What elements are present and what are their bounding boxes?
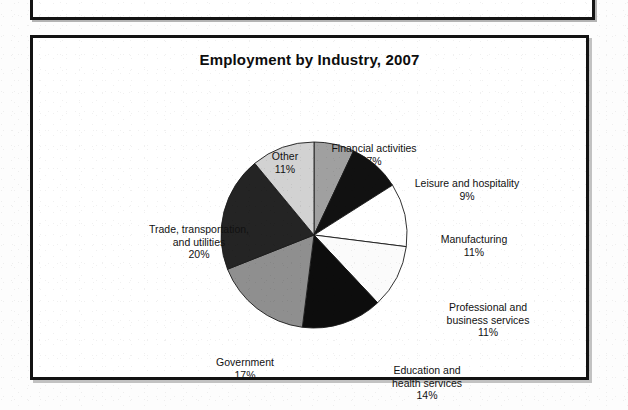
pie-label-government-value: 17% xyxy=(216,369,274,382)
pie-label-education-line2: health services xyxy=(392,377,462,390)
scanned-page: Employment by Industry, 2007 Other 11% F… xyxy=(0,0,628,410)
pie-label-leisure-and-hospitality-value: 9% xyxy=(415,190,519,203)
clipped-upper-figure-frame xyxy=(30,0,595,20)
pie-label-education-value: 14% xyxy=(392,389,462,402)
pie-label-leisure-and-hospitality: Leisure and hospitality 9% xyxy=(415,177,519,202)
pie-label-manufacturing-name: Manufacturing xyxy=(441,233,508,246)
pie-label-education-line1: Education and xyxy=(392,364,462,377)
pie-label-professional-value: 11% xyxy=(447,326,530,339)
figure-frame: Employment by Industry, 2007 Other 11% F… xyxy=(30,35,589,380)
pie-label-other: Other 11% xyxy=(272,150,298,175)
pie-label-professional-line1: Professional and xyxy=(447,301,530,314)
pie-label-education-and-health-services: Education and health services 14% xyxy=(392,364,462,402)
pie-label-trade-transportation-and-utilities: Trade, transportation, and utilities 20% xyxy=(149,223,249,261)
pie-label-professional-line2: business services xyxy=(447,314,530,327)
pie-label-government-name: Government xyxy=(216,356,274,369)
pie-label-professional-and-business-services: Professional and business services 11% xyxy=(447,301,530,339)
pie-label-manufacturing: Manufacturing 11% xyxy=(441,233,508,258)
pie-label-government: Government 17% xyxy=(216,356,274,381)
pie-label-other-name: Other xyxy=(272,150,298,163)
pie-label-trade-value: 20% xyxy=(149,248,249,261)
pie-label-financial-activities: Financial activities 7% xyxy=(331,142,416,167)
pie-label-financial-activities-name: Financial activities xyxy=(331,142,416,155)
pie-label-other-value: 11% xyxy=(272,163,298,176)
pie-label-trade-line1: Trade, transportation, xyxy=(149,223,249,236)
pie-label-leisure-and-hospitality-name: Leisure and hospitality xyxy=(415,177,519,190)
pie-label-trade-line2: and utilities xyxy=(149,236,249,249)
pie-label-financial-activities-value: 7% xyxy=(331,155,416,168)
pie-label-manufacturing-value: 11% xyxy=(441,246,508,259)
